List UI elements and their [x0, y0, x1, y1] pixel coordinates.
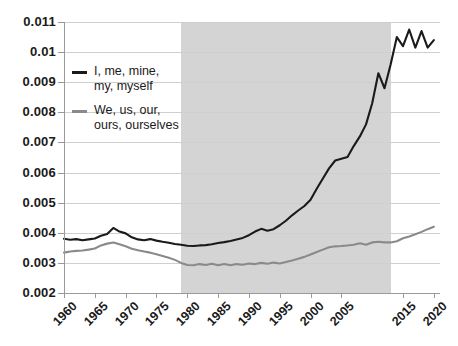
y-axis-line — [64, 22, 65, 294]
x-axis-tick — [280, 294, 281, 298]
chart-legend: I, me, mine, my, myself We, us, our, our… — [72, 64, 202, 142]
x-axis-label: 1970 — [112, 299, 142, 329]
y-axis-label: 0.009 — [0, 74, 56, 89]
x-axis-label: 1965 — [81, 299, 111, 329]
x-axis-label: 1990 — [235, 299, 265, 329]
x-axis-tick — [218, 294, 219, 298]
y-axis-label: 0.006 — [0, 165, 56, 180]
series-lines — [64, 22, 440, 293]
x-axis-label: 2000 — [297, 299, 327, 329]
x-axis-tick — [156, 294, 157, 298]
x-axis-tick — [126, 294, 127, 298]
x-axis-label: 1995 — [266, 299, 296, 329]
y-axis-label: 0.002 — [0, 285, 56, 300]
legend-label: We, us, our, ours, ourselves — [94, 103, 179, 133]
x-axis-tick — [64, 294, 65, 298]
y-axis-label: 0.004 — [0, 225, 56, 240]
x-axis-tick — [249, 294, 250, 298]
x-axis-label: 1960 — [50, 299, 80, 329]
legend-swatch-gray — [72, 110, 87, 113]
x-axis-tick — [95, 294, 96, 298]
y-axis-label: 0.007 — [0, 134, 56, 149]
y-axis-label: 0.003 — [0, 255, 56, 270]
y-axis-label: 0.011 — [0, 14, 56, 29]
y-axis-label: 0.008 — [0, 104, 56, 119]
x-axis-tick — [434, 294, 435, 298]
x-axis-tick — [403, 294, 404, 298]
x-axis-label: 1975 — [142, 299, 172, 329]
legend-item: We, us, our, ours, ourselves — [72, 103, 202, 133]
plot-area — [64, 22, 440, 293]
x-axis-tick — [187, 294, 188, 298]
legend-swatch-black — [72, 71, 87, 74]
chart-container: 0.0110.010.0090.0080.0070.0060.0050.0040… — [0, 0, 458, 346]
x-axis-label: 2020 — [420, 299, 450, 329]
legend-label: I, me, mine, my, myself — [94, 64, 159, 94]
x-axis-label: 1985 — [204, 299, 234, 329]
x-axis-label: 1980 — [173, 299, 203, 329]
legend-item: I, me, mine, my, myself — [72, 64, 202, 94]
x-axis-tick — [311, 294, 312, 298]
y-axis-label: 0.01 — [0, 44, 56, 59]
x-axis-line — [64, 293, 440, 294]
y-axis-label: 0.005 — [0, 195, 56, 210]
x-axis-label: 2005 — [327, 299, 357, 329]
x-axis-tick — [341, 294, 342, 298]
x-axis-label: 2015 — [389, 299, 419, 329]
